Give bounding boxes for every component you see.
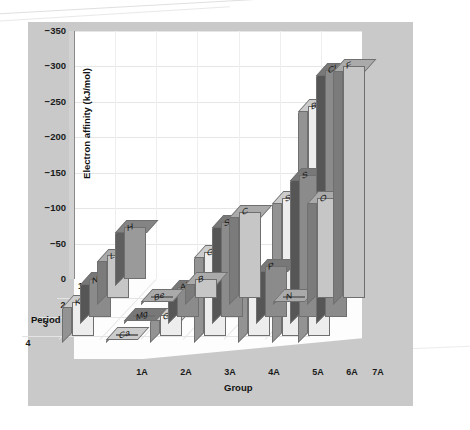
bar-side-face (229, 209, 239, 305)
bar-label-o: O (320, 191, 327, 204)
bar-side-face (307, 196, 317, 305)
scan-artifact-line (0, 6, 230, 23)
group-axis-tick-label: 6A (339, 367, 365, 377)
group-axis-tick-label: 7A (365, 367, 391, 377)
value-axis-tick-label: −200 (45, 131, 66, 142)
gridline-vertical (197, 31, 198, 279)
bar-be: Be (151, 296, 173, 298)
bar-b: B (195, 279, 217, 298)
period-axis-tick-label: 4 (26, 338, 31, 348)
group-axis-title: Group (224, 382, 253, 393)
group-axis-tick-label: 4A (261, 367, 287, 377)
bar-c: C (239, 212, 261, 298)
bar-f: F (343, 66, 365, 298)
bar-label-p: P (268, 260, 274, 272)
group-axis-tick-label: 2A (173, 367, 199, 377)
bar-label-s: S (302, 169, 308, 181)
value-axis-tick-label: −100 (45, 202, 66, 213)
chart-figure: 0−50−100−150−200−250−300−350 Electron af… (28, 22, 413, 406)
bar-front-face (239, 212, 261, 298)
bar-side-face (115, 225, 125, 286)
value-axis-title: Electron affinity (kJ/mol) (81, 64, 92, 184)
group-axis-tick-label: 3A (217, 367, 243, 377)
bar-side-face (333, 63, 343, 305)
gridline-vertical (156, 31, 157, 279)
value-axis-tick-label: −300 (45, 60, 66, 71)
bar-label-b: B (198, 272, 204, 284)
bar-label-n: N (286, 289, 292, 301)
value-axis-tick-label: −50 (50, 238, 66, 249)
scan-artifact-line (0, 0, 280, 16)
value-axis-tick-label: −150 (45, 167, 66, 178)
bar-h: H (124, 227, 146, 279)
gridline-horizontal (74, 66, 362, 67)
bar-front-face (124, 227, 146, 279)
value-axis-tick-label: −350 (45, 25, 66, 36)
bar-label-f: F (346, 59, 351, 71)
bar-n: N (283, 296, 305, 298)
gridline-horizontal (74, 31, 362, 32)
bar-front-face (343, 66, 365, 298)
bar-ca: Ca (116, 334, 138, 336)
bar-mg: Mg (133, 315, 155, 317)
group-axis-tick-label: 1A (129, 367, 155, 377)
period-axis-title: Period (31, 314, 61, 325)
value-axis-tick-label: 0 (61, 273, 66, 284)
group-axis-tick-label: 5A (305, 367, 331, 377)
value-axis-tick-label: −250 (45, 96, 66, 107)
value-axis-wall (69, 31, 75, 279)
